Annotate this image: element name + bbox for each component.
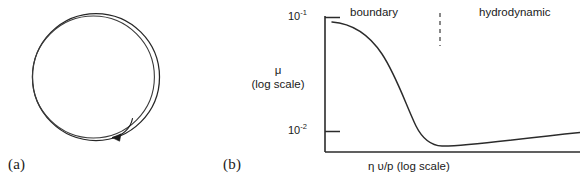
annotation-hydrodynamic: hydrodynamic: [479, 6, 551, 18]
panel-b-caption: (b): [223, 156, 241, 173]
y-axis-label-scale: (log scale): [251, 78, 304, 90]
x-axis-label: η υ/p (log scale): [368, 160, 450, 172]
rotation-arrow: [112, 119, 133, 142]
y-axis-label: μ (log scale): [232, 63, 324, 91]
y-axis-label-symbol: μ: [232, 63, 324, 77]
panel-journal-bearing: (a): [0, 0, 218, 183]
panel-a-caption: (a): [8, 156, 25, 173]
y-tick-upper-mantissa: 10: [288, 10, 300, 22]
y-tick-upper-exponent: -1: [300, 8, 307, 17]
y-tick-lower-mantissa: 10: [288, 124, 300, 136]
y-axis-tick-label-upper: 10-1: [288, 10, 307, 22]
stribeck-chart-drawing: [218, 0, 580, 183]
journal-shaft-circle: [32, 16, 154, 138]
panel-stribeck-curve: boundary hydrodynamic 10-1 10-2 μ (log s…: [218, 0, 580, 183]
y-tick-lower-exponent: -2: [300, 122, 307, 131]
figure-root: (a) boundary hydrodynamic 10-1 10-2 μ (l…: [0, 0, 580, 183]
stribeck-curve-path: [332, 22, 580, 146]
annotation-boundary: boundary: [350, 6, 398, 18]
y-axis-tick-label-lower: 10-2: [288, 124, 307, 136]
journal-bearing-drawing: [0, 0, 218, 183]
